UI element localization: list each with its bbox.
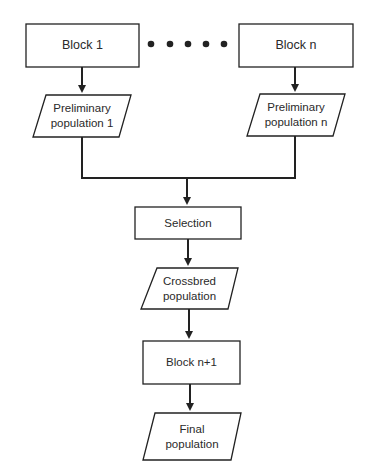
block-n-label: Block n [239,24,353,67]
prelimn-line2: population n [265,115,328,130]
crossbred-line1: Crossbred [163,274,216,289]
crossbred-line2: population [163,289,216,304]
block-n-text: Block n [276,38,317,53]
final-line2: population [165,437,218,452]
selection-text: Selection [164,216,211,231]
ellipsis-dots [148,41,228,48]
selection-label: Selection [135,207,241,239]
final-population-label: Final population [143,413,241,460]
prelim1-line2: population 1 [51,116,114,131]
block-n-plus-1-text: Block n+1 [166,355,217,370]
final-line1: Final [180,422,205,437]
merge-connector [82,136,295,178]
block-1-label: Block 1 [26,24,139,67]
block-1-text: Block 1 [62,38,103,53]
block-n-plus-1-label: Block n+1 [143,341,240,384]
preliminary-population-1-label: Preliminary population 1 [33,95,131,137]
crossbred-population-label: Crossbred population [141,268,238,309]
preliminary-population-n-label: Preliminary population n [247,94,345,136]
prelimn-line1: Preliminary [267,100,325,115]
prelim1-line1: Preliminary [53,101,111,116]
